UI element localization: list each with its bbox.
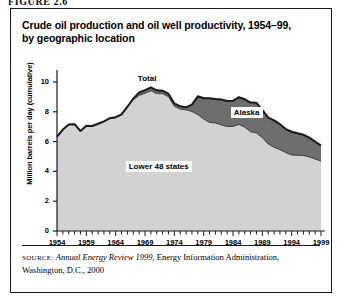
y-tick-label: 6 (35, 137, 49, 146)
figure-container: FIGURE 2.6 Crude oil production and oil … (0, 0, 345, 303)
chart-title: Crude oil production and oil well produc… (22, 19, 312, 45)
chart-title-line-1: Crude oil production and oil well produc… (22, 19, 291, 31)
chart-title-line-2: by geographic location (22, 32, 312, 45)
figure-number: FIGURE 2.6 (8, 0, 68, 7)
series-label-alaska: Alaska (231, 107, 263, 118)
source-publication: Annual Energy Review 1999 (56, 252, 153, 262)
source-divider (22, 245, 320, 246)
source-prefix: SOURCE: (22, 254, 54, 262)
area-chart (11, 57, 333, 249)
y-tick-label: 8 (35, 107, 49, 116)
series-label-total: Total (138, 74, 157, 83)
y-tick-label: 0 (35, 226, 49, 235)
y-tick-label: 4 (35, 166, 49, 175)
y-tick-label: 2 (35, 196, 49, 205)
y-tick-label: 10 (35, 77, 49, 86)
figure-panel: Crude oil production and oil well produc… (10, 8, 332, 293)
series-label-lower-48: Lower 48 states (126, 161, 192, 172)
plot-area: Million barrels per day (cumulative) 024… (11, 57, 333, 249)
source-note: SOURCE: Annual Energy Review 1999, Energ… (22, 252, 318, 276)
